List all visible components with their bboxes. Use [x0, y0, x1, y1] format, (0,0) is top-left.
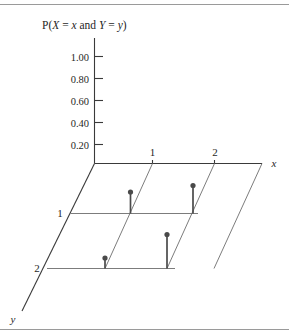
title-eq-2: =: [105, 19, 117, 31]
x-axis-label: x: [271, 157, 277, 169]
dot-x2-y1: [190, 183, 195, 188]
x-tick-label-1: 1: [150, 146, 156, 158]
plot-background: [0, 0, 289, 334]
y-axis-label: y: [10, 313, 16, 325]
plot-title: P(X = x and Y = y): [42, 19, 127, 32]
z-tick-label-1: 1.00: [71, 52, 89, 63]
y-tick-label-1: 1: [57, 207, 63, 219]
probability-3d-stem-plot: P(X = x and Y = y) 1.00 0.80 0.60 0.40 0…: [0, 0, 289, 334]
z-tick-label-4: 0.40: [71, 118, 89, 129]
title-close: ): [123, 19, 127, 32]
figure-container: P(X = x and Y = y) 1.00 0.80 0.60 0.40 0…: [0, 0, 289, 334]
dot-x2-y2: [164, 232, 169, 237]
x-tick-label-2: 2: [212, 146, 218, 158]
title-and: and: [77, 19, 99, 31]
z-tick-label-5: 0.20: [71, 140, 89, 151]
dot-x1-y2: [102, 255, 107, 260]
z-tick-label-3: 0.60: [71, 96, 89, 107]
y-tick-label-2: 2: [34, 262, 40, 274]
z-tick-label-2: 0.80: [71, 74, 89, 85]
dot-x1-y1: [128, 189, 133, 194]
title-eq-1: =: [59, 19, 71, 31]
title-p: P(: [42, 19, 52, 32]
